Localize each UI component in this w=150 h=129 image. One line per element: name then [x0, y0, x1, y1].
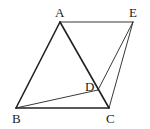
segment-ec [109, 22, 133, 108]
segment-ab [16, 22, 60, 108]
point-label-a: A [55, 5, 65, 20]
segment-ed [98, 22, 133, 90]
point-label-d: D [85, 79, 94, 94]
point-label-b: B [12, 111, 21, 126]
geometry-figure: A E B C D [0, 0, 150, 129]
point-label-c: C [106, 111, 115, 126]
segment-ac [60, 22, 109, 108]
point-label-e: E [129, 5, 137, 20]
